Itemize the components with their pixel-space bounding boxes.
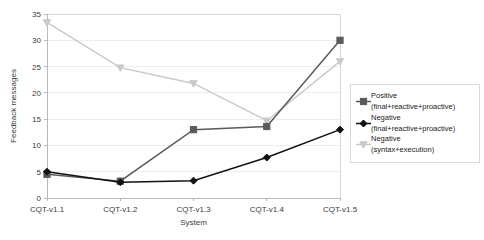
legend-marker-icon [356,92,371,101]
legend-marker-icon [356,135,371,144]
x-tick-label: CQT-v1.5 [323,205,358,214]
data-point [190,127,196,133]
y-tick-label: 0 [37,194,42,203]
series-3 [43,20,343,125]
chart-legend: Positive(final+reactive+proactive)Negati… [350,84,480,163]
y-tick-label: 30 [32,36,41,45]
y-tick-label: 10 [32,141,41,150]
legend-marker-icon [356,114,371,123]
series-line [47,22,340,120]
legend-label-secondary: (final+reactive+proactive) [356,124,474,134]
x-tick-label: CQT-v1.2 [103,205,138,214]
y-axis-title: Feedback messages [9,69,18,143]
series-line [47,130,340,183]
legend-entry: Positive [356,91,474,101]
data-point [43,20,50,26]
legend-marker [360,98,366,104]
data-point [337,126,344,133]
y-tick-label: 15 [32,115,41,124]
y-tick-label: 35 [32,10,41,19]
x-tick-label: CQT-v1.1 [30,205,65,214]
series-line [47,40,340,181]
data-point [337,37,343,43]
data-point [263,154,270,161]
legend-label-primary: Positive [371,91,397,101]
data-point [190,177,197,184]
series-1 [44,37,343,184]
legend-label-primary: Negative [371,134,401,144]
x-axis-title: System [180,218,207,227]
legend-label-secondary: (syntax+execution) [356,145,474,155]
legend-label-secondary: (final+reactive+proactive) [356,102,474,112]
legend-marker [360,120,367,127]
legend-entry: Negative [356,134,474,144]
x-tick-label: CQT-v1.3 [176,205,211,214]
legend-label-primary: Negative [371,113,401,123]
y-tick-label: 25 [32,63,41,72]
y-tick-label: 5 [37,168,42,177]
y-tick-label: 20 [32,89,41,98]
data-point [264,123,270,129]
legend-entry: Negative [356,113,474,123]
series-2 [44,126,344,186]
x-tick-label: CQT-v1.4 [250,205,285,214]
line-chart-figure: 05101520253035CQT-v1.1CQT-v1.2CQT-v1.3CQ… [0,0,484,240]
